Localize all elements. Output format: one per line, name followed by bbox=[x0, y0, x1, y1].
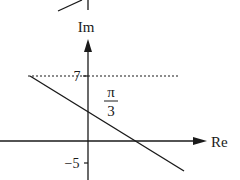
previous-figure-fragment bbox=[58, 0, 88, 11]
argand-diagram: Im Re 7 −5 π 3 bbox=[0, 0, 240, 180]
angle-denominator: 3 bbox=[107, 103, 115, 119]
real-axis-label: Re bbox=[211, 134, 228, 150]
real-axis-arrowhead-icon bbox=[193, 137, 207, 145]
imaginary-axis-label: Im bbox=[78, 19, 95, 35]
real-axis bbox=[0, 137, 207, 145]
angle-numerator: π bbox=[107, 84, 115, 100]
tick-label-7: 7 bbox=[74, 69, 81, 84]
tick-label-minus-5: −5 bbox=[65, 156, 80, 171]
angle-annotation: π 3 bbox=[104, 84, 118, 119]
imaginary-axis-arrowhead-icon bbox=[84, 39, 92, 52]
